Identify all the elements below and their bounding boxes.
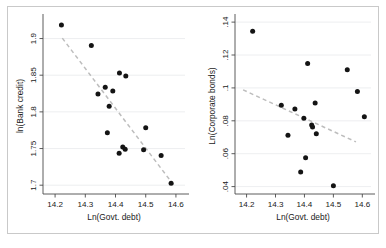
y-tick-label: 1.85 bbox=[30, 67, 39, 83]
trendline bbox=[243, 90, 356, 142]
y-tick-label: 1.9 bbox=[30, 32, 39, 44]
data-point bbox=[279, 103, 284, 108]
x-tick-label: 14.4 bbox=[297, 200, 313, 209]
x-tick-label: 14.2 bbox=[47, 200, 63, 209]
data-point bbox=[169, 181, 174, 186]
data-point bbox=[310, 125, 315, 130]
y-tick-label: 1.8 bbox=[30, 106, 39, 118]
gridlines bbox=[235, 22, 371, 186]
data-point bbox=[59, 22, 64, 27]
data-point bbox=[103, 85, 108, 90]
x-tick-label: 14.5 bbox=[138, 200, 154, 209]
data-point bbox=[314, 131, 319, 136]
data-point bbox=[110, 88, 115, 93]
y-tick-label: .04 bbox=[222, 180, 231, 192]
data-point bbox=[123, 73, 128, 78]
data-point bbox=[313, 101, 318, 106]
panel-bank-credit: 1.71.751.81.851.914.214.314.414.514.6Ln(… bbox=[7, 6, 193, 234]
data-point bbox=[285, 133, 290, 138]
data-point bbox=[292, 106, 297, 111]
data-point bbox=[345, 67, 350, 72]
x-tick-label: 14.5 bbox=[326, 200, 342, 209]
x-axis-title: Ln(Govt. debt) bbox=[87, 212, 141, 222]
x-tick-label: 14.3 bbox=[77, 200, 93, 209]
y-tick-label: .12 bbox=[222, 49, 231, 61]
data-point bbox=[250, 29, 255, 34]
x-tick-label: 14.6 bbox=[354, 200, 370, 209]
y-tick-label: .14 bbox=[222, 16, 231, 28]
data-point bbox=[301, 116, 306, 121]
data-point bbox=[123, 147, 128, 152]
data-point bbox=[362, 114, 367, 119]
x-axis-title: Ln(Govt. debt) bbox=[276, 212, 330, 222]
data-point bbox=[117, 71, 122, 76]
x-tick-label: 14.6 bbox=[168, 200, 184, 209]
x-tick-label: 14.4 bbox=[108, 200, 124, 209]
data-point bbox=[89, 43, 94, 48]
data-point bbox=[141, 147, 146, 152]
y-tick-label: 1.7 bbox=[30, 179, 39, 191]
y-axis-title: Ln(Corporate bonds) bbox=[207, 67, 217, 144]
data-points bbox=[250, 29, 367, 189]
figure-container: 1.71.751.81.851.914.214.314.414.514.6Ln(… bbox=[0, 0, 386, 248]
gridlines bbox=[43, 39, 185, 186]
data-point bbox=[331, 183, 336, 188]
data-point bbox=[303, 155, 308, 160]
y-tick-label: .1 bbox=[222, 84, 231, 91]
x-tick-label: 14.3 bbox=[268, 200, 284, 209]
y-tick-label: 1.75 bbox=[30, 140, 39, 156]
data-point bbox=[305, 61, 310, 66]
y-axis-title: ln(Bank credit) bbox=[15, 79, 25, 133]
data-point bbox=[105, 130, 110, 135]
x-tick-label: 14.2 bbox=[239, 200, 255, 209]
data-point bbox=[117, 151, 122, 156]
data-point bbox=[143, 125, 148, 130]
scatter-plot-bank-credit: 1.71.751.81.851.914.214.314.414.514.6Ln(… bbox=[7, 6, 193, 234]
y-tick-label: .08 bbox=[222, 115, 231, 127]
y-tick-label: .06 bbox=[222, 148, 231, 160]
data-point bbox=[107, 104, 112, 109]
data-point bbox=[298, 170, 303, 175]
data-point bbox=[95, 91, 100, 96]
panel-corporate-bonds: .04.06.08.1.12.1414.214.314.414.514.6Ln(… bbox=[193, 6, 379, 234]
scatter-plot-corporate-bonds: .04.06.08.1.12.1414.214.314.414.514.6Ln(… bbox=[193, 6, 379, 234]
data-point bbox=[355, 89, 360, 94]
data-point bbox=[159, 153, 164, 158]
